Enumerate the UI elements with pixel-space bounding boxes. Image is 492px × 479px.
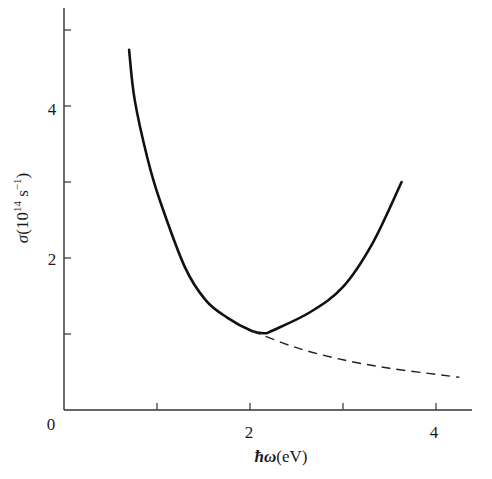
origin-label: 0 [47, 415, 56, 434]
y-axis-title-mid: s [13, 190, 32, 201]
y-axis-title-exp: 14 [11, 201, 23, 213]
y-axis-title-exp2: −1 [11, 179, 23, 191]
extrapolated-dashed-curve [252, 331, 459, 377]
axes [64, 8, 472, 410]
x-tick-label-2: 2 [245, 423, 254, 442]
y-axis-title-close: ) [13, 173, 32, 179]
y-axis-title-prefix: (10 [13, 212, 32, 235]
x-tick-label-4: 4 [430, 423, 439, 442]
x-axis-title-symbol: ħω [255, 447, 277, 466]
x-axis-title: ħω(eV) [255, 447, 308, 466]
y-tick-label-4: 4 [48, 100, 57, 119]
x-axis-title-unit: (eV) [276, 447, 307, 466]
measured-curve [129, 50, 402, 334]
y-axis-title: σ(1014 s−1) [11, 173, 32, 243]
x-ticks [157, 403, 436, 410]
chart: 0 2 4 2 4 ħω(eV) σ(1014 s−1) [0, 0, 492, 479]
y-ticks [64, 30, 71, 334]
y-tick-label-2: 2 [48, 250, 57, 269]
